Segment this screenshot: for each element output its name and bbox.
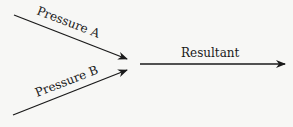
force-diagram: Pressure A Pressure B Resultant (0, 0, 293, 127)
diagram-canvas: Pressure A Pressure B Resultant (0, 0, 293, 127)
pressure-a-label: Pressure A (35, 4, 102, 41)
resultant-label: Resultant (181, 46, 240, 60)
